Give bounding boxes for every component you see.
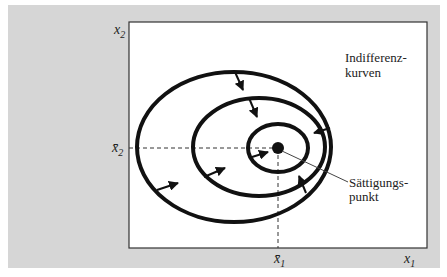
x-bar-marker: x̄1 bbox=[273, 251, 285, 269]
y-axis-label: x2 bbox=[113, 22, 125, 40]
curves-label-line2: kurven bbox=[345, 65, 382, 80]
x-axis-label: x1 bbox=[403, 251, 415, 269]
y-bar-marker: x̄2 bbox=[111, 140, 123, 158]
indifference-curve-diagram: x2 x1 x̄2 x̄1 Indifferenz- kurven Sättig… bbox=[0, 0, 447, 277]
satiation-label-line1: Sättigungs- bbox=[349, 175, 408, 190]
satiation-label-line2: punkt bbox=[349, 189, 379, 204]
satiation-point-dot bbox=[272, 142, 284, 154]
curves-label-line1: Indifferenz- bbox=[345, 50, 407, 65]
